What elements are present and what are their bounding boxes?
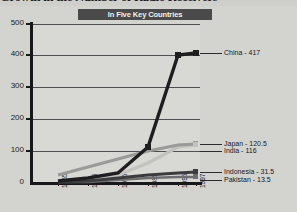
- leader-china: [200, 53, 222, 54]
- chart-panel: In Five Key Countries 500 400 300 200 10…: [0, 6, 297, 212]
- leader-indonesia: [200, 172, 222, 173]
- chart-figure: Growth in the Number of Radio Receivers …: [0, 0, 297, 212]
- series-label-pakistan: Pakistan - 13.5: [224, 176, 271, 184]
- marker-china-1985: [145, 144, 151, 150]
- marker-india-end: [193, 142, 198, 147]
- marker-indonesia-end: [193, 169, 198, 174]
- series-label-china: China - 417: [224, 49, 260, 57]
- marker-china-1995: [175, 52, 181, 58]
- publication-headline: Growth in the Number of Radio Receivers: [0, 0, 297, 4]
- leader-japan: [200, 144, 222, 145]
- leader-pakistan: [200, 180, 222, 181]
- series-label-indonesia: Indonesia - 31.5: [224, 168, 274, 176]
- leader-india: [200, 151, 222, 152]
- marker-china-end: [193, 50, 199, 56]
- series-label-india: India - 116: [224, 147, 257, 155]
- marker-pakistan-end: [193, 174, 198, 179]
- headline-text: Growth in the Number of Radio Receivers: [0, 0, 297, 4]
- line-china: [58, 53, 196, 181]
